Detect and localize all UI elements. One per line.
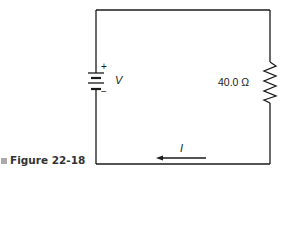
caption-marker-icon [1,158,7,164]
battery-voltage-label: V [115,74,122,86]
current-arrow-head [156,156,163,161]
battery-plus-sign: + [101,61,107,72]
figure-caption-text: Figure 22-18 [10,154,85,166]
resistor-value-label: 40.0 Ω [218,76,249,88]
battery-minus-sign: − [101,86,107,97]
figure-caption: Figure 22-18 [1,154,85,166]
resistor-symbol [264,62,276,103]
current-label: I [180,142,183,154]
